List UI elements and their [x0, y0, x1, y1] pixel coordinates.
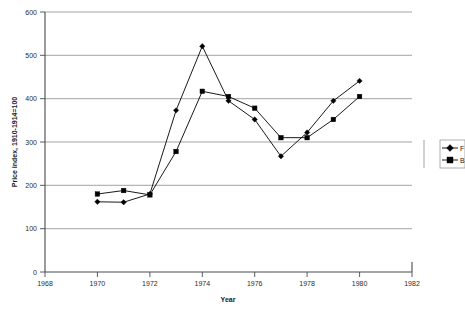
y-tick-marks: [40, 12, 45, 272]
legend-marker-square-icon: [447, 157, 453, 163]
x-tick-labels: 1968 1970 1972 1974 1976 1978 1980 1982: [37, 280, 420, 287]
y-tick-label: 500: [25, 52, 37, 59]
x-tick-label: 1972: [142, 280, 158, 287]
x-tick-label: 1976: [247, 280, 263, 287]
data-point-square: [174, 149, 179, 154]
y-tick-label: 200: [25, 182, 37, 189]
data-point-square: [305, 135, 310, 140]
x-tick-label: 1980: [352, 280, 368, 287]
data-point-square: [95, 192, 100, 197]
x-tick-label: 1968: [37, 280, 53, 287]
y-tick-label: 0: [33, 269, 37, 276]
y-tick-label: 300: [25, 139, 37, 146]
legend-marker-diamond-icon: [447, 145, 454, 152]
legend-label: B: [460, 157, 465, 164]
data-point-square: [200, 89, 205, 94]
line-chart: 0 100 200 300 400 500 600 1968 1970 1972…: [0, 0, 465, 313]
y-tick-labels: 0 100 200 300 400 500 600: [25, 9, 37, 276]
legend-label: F: [460, 145, 464, 152]
data-point-square: [252, 106, 257, 111]
x-tick-label: 1974: [195, 280, 211, 287]
data-point-square: [357, 94, 362, 99]
data-point-square: [121, 188, 126, 193]
legend-entry-1[interactable]: B: [442, 157, 465, 164]
x-tick-marks: [45, 272, 412, 277]
x-tick-label: 1970: [90, 280, 106, 287]
x-tick-label: 1978: [299, 280, 315, 287]
y-tick-label: 100: [25, 225, 37, 232]
data-point-square: [226, 94, 231, 99]
x-tick-label: 1982: [404, 280, 420, 287]
y-tick-label: 400: [25, 95, 37, 102]
data-point-square: [331, 117, 336, 122]
x-axis-title: Year: [221, 296, 236, 303]
y-axis-title: Price index, 1910-1914=100: [11, 97, 19, 188]
data-point-square: [148, 193, 153, 198]
legend[interactable]: F B: [424, 140, 465, 168]
legend-entry-0[interactable]: F: [442, 145, 464, 152]
data-point-square: [279, 135, 284, 140]
y-tick-label: 600: [25, 9, 37, 16]
